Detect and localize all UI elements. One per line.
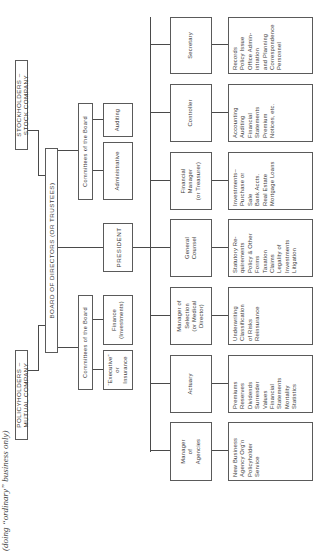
- connector: [85, 150, 86, 151]
- connector: [38, 130, 39, 176]
- officer-box: Financial Manager (or Treasurer): [170, 152, 212, 210]
- duties-box: Premiums Reserves Dividends Surrender Va…: [228, 355, 313, 413]
- connector: [150, 383, 170, 384]
- officer-box: Manager of Selection (or Medical Directo…: [170, 287, 212, 345]
- connector: [38, 325, 45, 326]
- connector: [150, 247, 170, 248]
- finance-committee-box: Finance (Investments): [103, 295, 133, 345]
- officer-box: Manager of Agencies: [170, 422, 212, 481]
- connector: [150, 112, 170, 113]
- connector: [133, 247, 150, 248]
- connector: [212, 247, 228, 248]
- connector: [212, 112, 228, 113]
- duties-box: Records Policy Issue Office Admin- istra…: [228, 17, 313, 74]
- officer-box: Actuary: [170, 355, 212, 413]
- connector: [212, 180, 228, 181]
- connector: [93, 319, 103, 320]
- connector: [212, 315, 228, 316]
- connector: [212, 450, 228, 451]
- duties-box: Investments– Purchase or Sale Bank Accts…: [228, 152, 313, 210]
- connector: [93, 369, 103, 370]
- executive-committee-box: “Executive” or Insurance: [103, 350, 133, 390]
- officer-box: Controller: [170, 84, 212, 142]
- connector: [150, 315, 170, 316]
- connector: [150, 180, 170, 181]
- administrative-committee-box: Administrative: [103, 142, 133, 200]
- connector: [93, 119, 103, 120]
- policyholders-box: POLICYHOLDERS – MUTUAL COMPANY: [15, 350, 28, 440]
- duties-box: New Business Agency Org'n Policyholder S…: [228, 422, 313, 481]
- connector: [212, 44, 228, 45]
- officer-box: Secretary: [170, 17, 212, 74]
- connector: [58, 247, 103, 248]
- connector: [28, 130, 38, 131]
- connector: [38, 175, 45, 176]
- connector: [212, 383, 228, 384]
- duties-box: Underwriting Classification of Risks Rei…: [228, 287, 313, 345]
- connector: [38, 326, 39, 371]
- board-of-directors-box: BOARD OF DIRECTORS (OR TRUSTEES): [45, 148, 58, 353]
- committees-lower-box: Committees of the Board: [78, 295, 93, 390]
- connector: [150, 450, 170, 451]
- auditing-committee-box: Auditing: [103, 103, 133, 137]
- connector: [28, 370, 38, 371]
- officer-box: General Counsel: [170, 219, 212, 277]
- officer-bus: [150, 17, 151, 452]
- connector: [93, 170, 103, 171]
- duties-box: Statutory Re- quirements Policy & Other …: [228, 219, 313, 277]
- duties-box: Accounting Auditing Financial Statements…: [228, 84, 313, 142]
- connector: [150, 44, 170, 45]
- president-box: PRESIDENT: [103, 223, 133, 272]
- stockholders-box: STOCKHOLDERS – STOCK COMPANY: [15, 60, 28, 150]
- committees-upper-box: Committees of the Board: [78, 103, 93, 200]
- chart-subtitle: (doing “ordinary” business only): [0, 431, 10, 551]
